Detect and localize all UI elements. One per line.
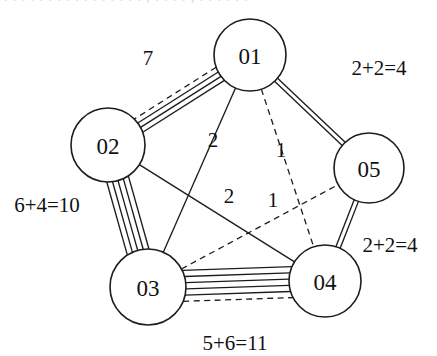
edge-e-03-04-strand-0 [182,267,292,271]
edge-e-03-04-strand-1 [185,273,290,277]
node-label-02: 02 [97,134,120,159]
edge-e-01-05[interactable] [275,78,346,145]
edge-label-e-01-05: 2+2=4 [351,56,407,80]
edge-e-03-04-strand-3 [186,285,289,289]
edge-e-01-02-strand-2 [138,72,219,123]
edge-e-03-04-strand-5 [183,298,293,302]
edge-label-e-01-04: 1 [276,138,287,162]
edge-label-e-03-04: 5+6=11 [203,331,268,355]
edge-e-01-05-strand-1 [275,81,343,145]
edge-label-e-01-02: 7 [143,46,154,70]
edge-e-02-04[interactable] [139,165,294,262]
node-02[interactable]: 02 [71,108,145,182]
edge-e-01-05-strand-0 [278,78,346,142]
node-label-03: 03 [137,276,160,301]
node-label-04: 04 [314,270,338,295]
edge-e-05-04-strand-0 [340,201,358,248]
edge-label-e-01-03: 2 [208,128,219,152]
edge-e-01-04-strand-0 [261,89,313,247]
node-05[interactable]: 05 [334,133,404,203]
edge-e-05-04-strand-1 [336,200,354,247]
edge-label-e-03-05: 1 [268,188,279,212]
edge-e-02-03-strand-3 [113,182,133,253]
node-03[interactable]: 03 [110,249,186,325]
edge-e-02-03-strand-0 [128,176,149,249]
edge-e-02-03-strand-4 [107,182,128,255]
edge-e-03-04-strand-2 [186,279,289,283]
edge-e-02-03[interactable] [107,176,149,255]
node-label-05: 05 [358,157,381,182]
edge-e-01-02-strand-0 [143,80,225,132]
edge-label-e-02-03: 6+4=10 [14,193,80,217]
edge-e-02-03-strand-1 [123,179,143,250]
edge-e-01-02[interactable] [134,67,224,132]
diagram-root: . . . . . . . . . . . . . . . . , . . . … [0,0,437,356]
edge-e-03-04[interactable] [182,267,293,302]
node-label-01: 01 [239,44,262,69]
edge-e-05-04[interactable] [336,200,359,249]
edge-label-e-05-04: 2+2=4 [362,233,418,257]
node-01[interactable]: 01 [214,19,286,91]
edge-e-01-04[interactable] [261,89,313,247]
node-04[interactable]: 04 [289,245,361,317]
edge-e-03-04-strand-4 [185,291,290,295]
edge-e-01-02-strand-1 [141,76,221,127]
edge-label-e-02-04: 2 [224,184,235,208]
edge-e-02-03-strand-2 [118,181,138,251]
graph-canvas: 0102030405 76+4=105+6=112+2=42+2=42211 [0,0,437,356]
edge-e-02-04-strand-0 [139,165,294,262]
